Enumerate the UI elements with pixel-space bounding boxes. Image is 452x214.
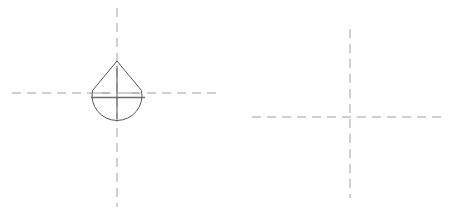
right-figure-group: [252, 29, 443, 198]
drawing-canvas: Technical drawing — drop-shaped profile …: [0, 0, 452, 214]
technical-drawing-svg: Technical drawing — drop-shaped profile …: [0, 0, 452, 214]
left-figure-group: [12, 8, 222, 207]
